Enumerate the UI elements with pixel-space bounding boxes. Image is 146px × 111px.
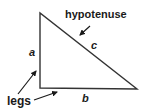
- legs-arrow-a: [18, 71, 36, 94]
- side-c-label: c: [91, 40, 97, 51]
- legs-label: legs: [7, 95, 31, 107]
- hypotenuse-arrow: [80, 26, 90, 35]
- legs-arrow-b: [34, 92, 57, 100]
- side-a-label: a: [29, 47, 35, 58]
- side-b-label: b: [82, 93, 89, 104]
- hypotenuse-label: hypotenuse: [65, 9, 127, 20]
- triangle-shape: [40, 13, 137, 89]
- right-triangle-diagram: hypotenuse a b c legs: [0, 0, 146, 111]
